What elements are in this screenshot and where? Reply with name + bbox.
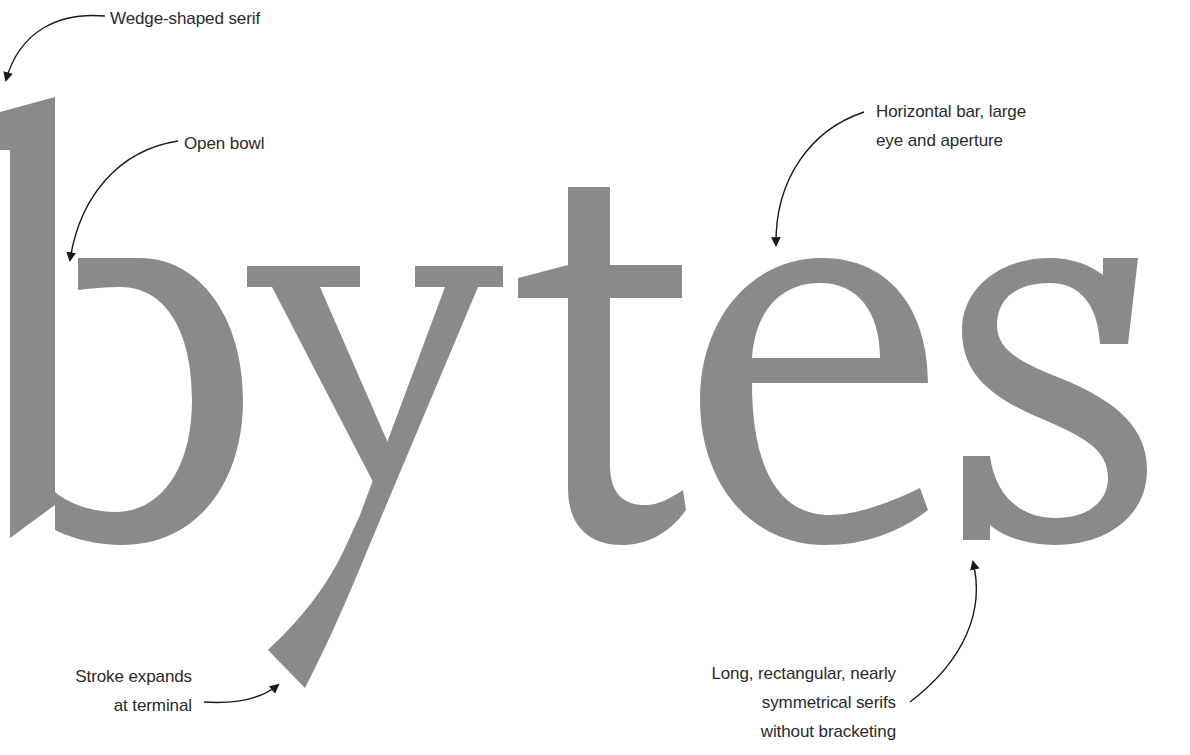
b-stem (0, 97, 55, 538)
glyph-t (518, 187, 686, 545)
annotation-rectangular-serifs: Long, rectangular, nearly symmetrical se… (660, 659, 896, 746)
annotation-line: eye and aperture (876, 126, 1026, 155)
annotation-line: without bracketing (660, 717, 896, 746)
y-right-arm-tail (268, 287, 478, 688)
e-body (700, 258, 928, 545)
arrow-stroke (204, 685, 278, 702)
arrow-wedge (6, 15, 105, 80)
arrow-bar (776, 112, 864, 245)
annotation-line: at terminal (40, 691, 192, 720)
annotation-wedge-shaped-serif: Wedge-shaped serif (110, 4, 260, 33)
arrow-bowl (70, 141, 178, 260)
arrow-serifs (910, 562, 976, 702)
annotation-line: Wedge-shaped serif (110, 4, 260, 33)
glyph-y (247, 266, 503, 688)
annotation-line: Open bowl (184, 129, 264, 158)
s-body (962, 258, 1147, 545)
t-stem (568, 187, 686, 545)
annotation-line: Long, rectangular, nearly (660, 659, 896, 688)
glyph-s (962, 258, 1147, 545)
typography-diagram: Wedge-shaped serif Open bowl Horizontal … (0, 0, 1190, 755)
y-left-serif (247, 266, 360, 287)
annotation-stroke-expands: Stroke expands at terminal (40, 662, 192, 720)
annotation-line: Stroke expands (40, 662, 192, 691)
annotation-line: Horizontal bar, large (876, 97, 1026, 126)
glyph-e (700, 258, 928, 545)
annotation-horizontal-bar: Horizontal bar, large eye and aperture (876, 97, 1026, 155)
y-right-serif (415, 266, 503, 287)
annotation-open-bowl: Open bowl (184, 129, 264, 158)
b-bowl (55, 258, 243, 545)
annotation-line: symmetrical serifs (660, 688, 896, 717)
